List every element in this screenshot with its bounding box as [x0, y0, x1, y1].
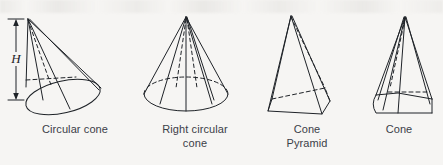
base-ellipse — [22, 73, 103, 121]
figure-root: H Circular cone Right circular cone Cone… — [0, 0, 443, 165]
base-visible-edges — [268, 99, 330, 114]
base-hidden-edges — [272, 88, 330, 101]
shape-cone-pyramid — [268, 16, 330, 114]
caption-circular-cone: Circular cone — [10, 122, 140, 136]
caption-cone: Cone — [355, 122, 443, 136]
shape-cone — [373, 17, 432, 113]
caption-cone-pyramid: Cone Pyramid — [252, 122, 362, 150]
shape-circular-cone — [8, 19, 104, 121]
base-upper-rim — [376, 93, 432, 99]
hidden-lateral-edge — [291, 17, 325, 88]
shape-right-circular-cone — [144, 17, 228, 111]
height-dimension-label: H — [6, 52, 26, 66]
caption-right-circular-cone: Right circular cone — [135, 122, 255, 150]
